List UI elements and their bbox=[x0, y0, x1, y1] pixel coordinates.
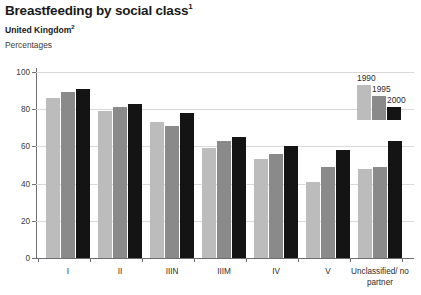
bar-1995-unclassified-no-partner[interactable] bbox=[373, 167, 387, 258]
y-tick-mark-60 bbox=[32, 146, 36, 147]
y-axis-line bbox=[36, 68, 37, 258]
y-tick-mark-100 bbox=[32, 72, 36, 73]
y-tick-label-80: 80 bbox=[21, 105, 30, 114]
bar-group bbox=[254, 72, 298, 258]
title-footnote-marker: 1 bbox=[188, 2, 192, 11]
bar-group bbox=[306, 72, 350, 258]
y-tick-mark-80 bbox=[32, 109, 36, 110]
chart-legend: 1990 1995 2000 bbox=[357, 85, 403, 120]
x-axis-label-iiin: IIIN bbox=[166, 267, 179, 278]
y-tick-mark-0 bbox=[32, 258, 36, 259]
bar-group bbox=[98, 72, 142, 258]
bar-group bbox=[150, 72, 194, 258]
x-axis-label-ii: II bbox=[118, 267, 123, 278]
y-tick-mark-20 bbox=[32, 221, 36, 222]
legend-label-2000: 2000 bbox=[387, 95, 406, 105]
bar-1990-v[interactable] bbox=[306, 182, 320, 258]
bar-1990-iiin[interactable] bbox=[150, 122, 164, 258]
bar-1990-iv[interactable] bbox=[254, 159, 268, 258]
y-tick-label-0: 0 bbox=[25, 254, 30, 263]
x-tick-mark bbox=[350, 258, 351, 262]
bar-1995-v[interactable] bbox=[321, 167, 335, 258]
x-axis-label-unclassified-no-partner: Unclassified/ no partner bbox=[347, 267, 413, 288]
chart-units-label: Percentages bbox=[5, 40, 52, 50]
x-tick-mark bbox=[38, 258, 39, 262]
x-axis-line bbox=[36, 258, 414, 259]
legend-swatch-1990 bbox=[357, 85, 371, 120]
bar-group bbox=[46, 72, 90, 258]
x-tick-mark bbox=[90, 258, 91, 262]
x-tick-mark bbox=[142, 258, 143, 262]
chart-subtitle-text: United Kingdom bbox=[5, 25, 71, 35]
bar-2000-iv[interactable] bbox=[284, 146, 298, 258]
x-axis-label-iiim: IIIM bbox=[217, 267, 231, 278]
bar-2000-iiim[interactable] bbox=[232, 137, 246, 258]
bar-1995-ii[interactable] bbox=[113, 107, 127, 258]
y-tick-mark-40 bbox=[32, 184, 36, 185]
bar-1990-i[interactable] bbox=[46, 98, 60, 258]
bar-1990-iiim[interactable] bbox=[202, 148, 216, 258]
bar-1995-iiin[interactable] bbox=[165, 126, 179, 258]
bar-2000-ii[interactable] bbox=[128, 104, 142, 258]
bar-group bbox=[202, 72, 246, 258]
x-axis-label-i: I bbox=[67, 267, 69, 278]
y-tick-label-60: 60 bbox=[21, 142, 30, 151]
bar-2000-iiin[interactable] bbox=[180, 113, 194, 258]
y-tick-label-20: 20 bbox=[21, 216, 30, 225]
bar-2000-i[interactable] bbox=[76, 89, 90, 258]
legend-label-1990: 1990 bbox=[357, 73, 376, 83]
bar-1995-iv[interactable] bbox=[269, 154, 283, 258]
bar-1995-i[interactable] bbox=[61, 92, 75, 258]
bar-2000-unclassified-no-partner[interactable] bbox=[388, 141, 402, 258]
page-title: Breastfeeding by social class1 bbox=[5, 2, 193, 18]
x-tick-mark bbox=[402, 258, 403, 262]
bar-2000-v[interactable] bbox=[336, 150, 350, 258]
legend-label-1995: 1995 bbox=[372, 84, 391, 94]
y-tick-label-100: 100 bbox=[16, 68, 30, 77]
bar-1990-ii[interactable] bbox=[98, 111, 112, 258]
page-title-text: Breastfeeding by social class bbox=[5, 3, 188, 18]
chart-subtitle: United Kingdom2 bbox=[5, 24, 75, 35]
x-tick-mark bbox=[246, 258, 247, 262]
bar-1990-unclassified-no-partner[interactable] bbox=[358, 169, 372, 258]
x-axis-label-v: V bbox=[325, 267, 330, 278]
x-tick-mark bbox=[298, 258, 299, 262]
x-axis-label-iv: IV bbox=[272, 267, 280, 278]
bar-1995-iiim[interactable] bbox=[217, 141, 231, 258]
subtitle-footnote-marker: 2 bbox=[71, 24, 74, 30]
y-tick-label-40: 40 bbox=[21, 179, 30, 188]
legend-swatch-1995 bbox=[372, 96, 386, 120]
legend-swatch-2000 bbox=[387, 107, 401, 120]
chart-page: Breastfeeding by social class1 United Ki… bbox=[0, 0, 421, 295]
x-tick-mark bbox=[194, 258, 195, 262]
